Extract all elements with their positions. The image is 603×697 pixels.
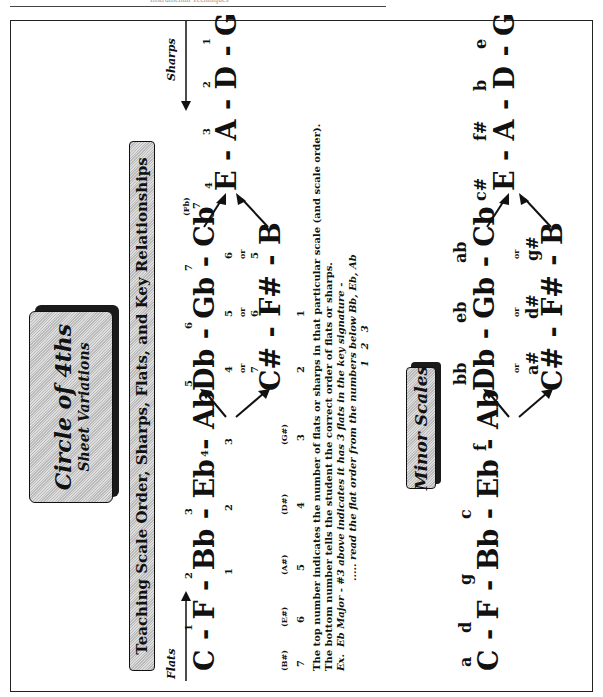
sharp-count: 6 — [295, 616, 306, 623]
flat-order: 2 — [223, 504, 234, 511]
or-label: or — [237, 363, 247, 373]
sharp-name: (E#) — [279, 607, 289, 627]
note-line-5: 1 2 3 — [359, 325, 371, 367]
note-line-3: Ex. Eb Major - #3 above indicates it has… — [335, 283, 347, 671]
banner: Teaching Scale Order, Sharps, Flats, and… — [129, 141, 155, 671]
minor-scales-box: Minor Scales — [406, 361, 442, 489]
header-rule — [10, 6, 386, 7]
minor-key: f# — [471, 121, 490, 141]
flat-order: 3 — [223, 438, 234, 445]
sharp-name: (D#) — [279, 494, 289, 515]
sharp-count: 3 — [295, 434, 306, 441]
minor-key-row-sharps: E - A - D - G — [489, 13, 520, 191]
arrow-icon — [196, 381, 286, 421]
minor-key: bb — [451, 363, 470, 385]
title-box: Circle of 4ths Sheet Variations — [29, 303, 119, 503]
minor-key: ab — [451, 241, 470, 263]
document-frame: Circle of 4ths Sheet Variations Teaching… — [10, 20, 593, 692]
note-line-4: ..... read the flat order from the numbe… — [347, 254, 359, 581]
key-e-a-d-g: E - A - D - G — [211, 13, 242, 191]
or-label: or — [237, 249, 247, 259]
or-label: or — [511, 363, 521, 373]
arrow-icon — [479, 381, 569, 421]
minor-key-row-middle: Db - Gb - Cb — [469, 206, 500, 391]
minor-key-row-flats: C - F - Bb - Eb - Ab — [473, 389, 504, 671]
flat-order: 4 — [223, 366, 234, 373]
or-label: or — [237, 307, 247, 317]
minor-scales-title: Minor Scales — [406, 367, 436, 489]
flat-order: 1 — [223, 568, 234, 575]
minor-key: eb — [451, 302, 470, 323]
sharp-name: (G#) — [279, 424, 289, 445]
or-label: or — [511, 307, 521, 317]
arrow-icon — [479, 189, 569, 229]
sharps-arrow-icon — [181, 21, 191, 111]
note-line-2: The bottom number tells the student the … — [323, 262, 335, 671]
key-c#-f#-b: C# - F# - B — [255, 222, 286, 391]
subtitle: Sheet Variations — [76, 342, 92, 471]
sharp-count: 7 — [295, 660, 306, 667]
sharp-count: 1 — [295, 310, 306, 317]
sharp-count: 4 — [295, 502, 306, 509]
sharp-count: 2 — [295, 366, 306, 373]
minor-key: b — [471, 80, 490, 91]
flat-order: 6 — [223, 252, 234, 259]
sharp-count: 5 — [295, 564, 306, 571]
minor-enharmonic-row: C# - F# - B — [537, 222, 568, 391]
title-box-face: Circle of 4ths Sheet Variations — [29, 311, 113, 503]
sharp-name: (A#) — [279, 555, 289, 575]
key-db-gb-cb: Db - Gb - Cb — [189, 206, 220, 391]
page-header: Instrumental Techniques — [150, 0, 229, 4]
minor-key: e — [471, 39, 490, 49]
rotated-sheet: Circle of 4ths Sheet Variations Teaching… — [11, 21, 591, 691]
sharps-label: Sharps — [165, 38, 178, 81]
sharp-name: (B#) — [279, 650, 289, 671]
or-label: or — [511, 249, 521, 259]
title: Circle of 4ths — [50, 324, 76, 491]
flats-label: Flats — [165, 649, 178, 679]
key-c: C - F - Bb - Eb - Ab — [189, 389, 220, 671]
flat-order: 5 — [223, 310, 234, 317]
note-line-1: The top number indicates the number of f… — [311, 124, 323, 671]
arrow-icon — [196, 189, 286, 229]
